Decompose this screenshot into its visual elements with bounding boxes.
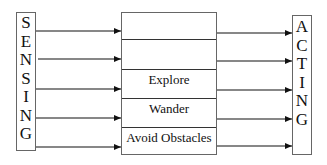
acting-box: A C T I N G [292,15,312,155]
behavior-layer [122,39,216,72]
sensing-letter: I [23,88,29,107]
acting-letter: T [297,55,307,74]
input-arrows [35,31,121,147]
acting-letter: C [296,37,307,56]
sensing-letter: S [21,14,30,33]
acting-letter: N [296,92,308,111]
sensing-box: S E N S I N G [16,12,36,151]
behavior-layer-avoid-obstacles: Avoid Obstacles [122,127,216,158]
layer-label: Explore [148,72,189,87]
layer-label: Wander [149,101,189,116]
behavior-layer-top [122,13,216,41]
sensing-letter: G [20,125,32,144]
behavior-layers-box: Explore Wander Avoid Obstacles [121,12,217,155]
acting-letter: A [296,18,308,37]
output-arrows [216,33,292,146]
behavior-layer-wander: Wander [122,98,216,130]
sensing-letter: S [21,70,30,89]
sensing-letter: N [20,51,32,70]
acting-letter: G [296,111,308,130]
sensing-letter: N [20,107,32,126]
sensing-letter: E [21,33,31,52]
acting-letter: I [299,74,305,93]
layer-label: Avoid Obstacles [126,130,211,145]
behavior-layer-explore: Explore [122,69,216,101]
